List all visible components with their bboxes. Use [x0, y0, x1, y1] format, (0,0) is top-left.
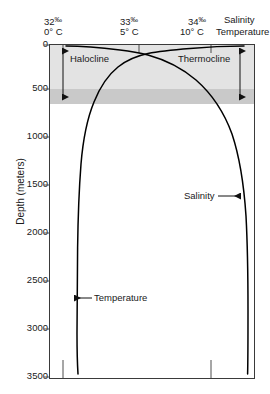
- shaded-band-pycnocline: [50, 89, 254, 104]
- depth-profile-figure: 32‰ 33‰ 34‰ Salinity 0° C 5° C 10° C Tem…: [0, 0, 270, 394]
- thermocline-label: Thermocline: [178, 53, 230, 64]
- shaded-band-upper: [50, 45, 254, 89]
- temperature-curve-label: Temperature: [94, 292, 147, 303]
- salinity-curve-label: Salinity: [184, 190, 215, 201]
- halocline-label: Halocline: [70, 53, 109, 64]
